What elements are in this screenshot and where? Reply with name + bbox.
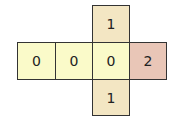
cell-value: 0: [70, 53, 79, 69]
cell-row-3: 2: [129, 42, 167, 80]
cell-value: 1: [107, 90, 116, 106]
cell-top: 1: [92, 5, 130, 43]
cell-value: 1: [107, 16, 116, 32]
cell-value: 0: [107, 53, 116, 69]
cell-value: 0: [32, 53, 41, 69]
cell-row-0: 0: [17, 42, 56, 80]
cell-bottom: 1: [92, 79, 130, 116]
cell-row-2-center: 0: [92, 42, 130, 80]
cell-row-1: 0: [55, 42, 93, 80]
cell-value: 2: [144, 53, 153, 69]
